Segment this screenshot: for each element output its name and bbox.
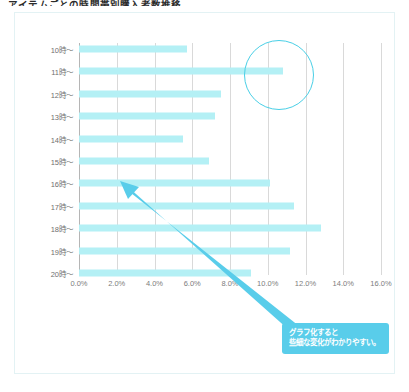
gridline <box>381 43 382 275</box>
highlight-circle-annotation <box>244 40 314 110</box>
x-axis-tick-label: 6.0% <box>184 279 201 288</box>
y-axis-label: 19時〜 <box>21 245 73 256</box>
y-axis-label: 16時〜 <box>21 178 73 189</box>
bar <box>79 158 209 165</box>
y-axis-label: 15時〜 <box>21 156 73 167</box>
y-axis-label: 20時〜 <box>21 268 73 279</box>
y-axis-label: 11時〜 <box>21 66 73 77</box>
bar <box>79 135 183 142</box>
y-axis-label: 17時〜 <box>21 200 73 211</box>
callout-tooltip: グラフ化すると 些細な変化がわかりやすい。 <box>282 323 389 354</box>
x-axis-tick-label: 0.0% <box>70 279 87 288</box>
callout-line-2: 些細な変化がわかりやすい。 <box>289 338 382 348</box>
y-axis-label: 18時〜 <box>21 223 73 234</box>
gridline <box>343 43 344 275</box>
bar <box>79 113 215 120</box>
callout-line-1: グラフ化すると <box>289 328 382 338</box>
x-axis-tick-label: 12.0% <box>295 279 316 288</box>
bar <box>79 225 321 232</box>
x-axis-tick-label: 10.0% <box>257 279 278 288</box>
x-axis-tick-label: 14.0% <box>333 279 354 288</box>
x-axis-tick-label: 16.0% <box>370 279 391 288</box>
x-axis-tick-label: 2.0% <box>108 279 125 288</box>
bar-chart-plot-area: 10時〜11時〜12時〜13時〜14時〜15時〜16時〜17時〜18時〜19時〜… <box>15 13 396 375</box>
bar <box>79 90 221 97</box>
bar <box>79 180 270 187</box>
x-axis-tick-label: 4.0% <box>146 279 163 288</box>
gridline <box>230 43 231 275</box>
bar <box>79 247 290 254</box>
y-axis-label: 10時〜 <box>21 44 73 55</box>
x-axis-tick-label: 8.0% <box>221 279 238 288</box>
y-axis-label: 13時〜 <box>21 111 73 122</box>
y-axis-label: 12時〜 <box>21 88 73 99</box>
bar <box>79 46 187 53</box>
chart-card: 10時〜11時〜12時〜13時〜14時〜15時〜16時〜17時〜18時〜19時〜… <box>14 12 395 374</box>
bar <box>79 270 251 277</box>
page-title: アイテムごとの時間帯別購入者数推移 <box>8 0 181 6</box>
y-axis-label: 14時〜 <box>21 133 73 144</box>
bar <box>79 202 294 209</box>
